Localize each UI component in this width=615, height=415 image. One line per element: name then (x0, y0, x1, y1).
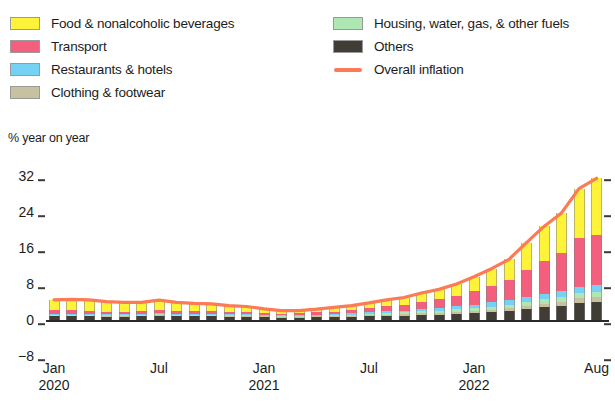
bar-segment (591, 285, 602, 292)
bar-column[interactable] (591, 178, 602, 320)
legend-item-others[interactable]: Others (333, 35, 569, 58)
bar-segment (521, 309, 532, 320)
bar-segment (504, 311, 515, 320)
bar-segment (154, 300, 165, 310)
bar-column[interactable] (346, 306, 357, 320)
legend-color-swatch-clothing (10, 86, 40, 99)
bar-segment (416, 315, 427, 320)
bar-segment (66, 316, 77, 320)
bar-segment (486, 286, 497, 302)
bar-segment (451, 296, 462, 306)
x-tick-month: Jan (463, 360, 486, 376)
bar-column[interactable] (241, 307, 252, 320)
legend-item-food[interactable]: Food & nonalcoholic beverages (10, 12, 234, 35)
bar-segment (556, 213, 567, 253)
bar-segment (101, 302, 112, 312)
bar-segment (119, 303, 130, 312)
bar-segment (469, 277, 480, 291)
legend-item-housing[interactable]: Housing, water, gas, & other fuels (333, 12, 569, 35)
legend-item-restaurants[interactable]: Restaurants & hotels (10, 58, 234, 81)
legend-label-transport: Transport (51, 39, 106, 54)
bar-segment (171, 303, 182, 312)
bar-segment (574, 303, 585, 320)
bar-column[interactable] (136, 302, 147, 320)
bar-column[interactable] (329, 307, 340, 320)
bar-column[interactable] (276, 311, 287, 320)
bar-column[interactable] (539, 226, 550, 320)
legend-line-swatch-overall (333, 63, 363, 76)
bar-segment (539, 261, 550, 294)
x-tick-label: Jan2022 (458, 360, 489, 394)
inflation-contributions-chart: Food & nonalcoholic beveragesTransportRe… (0, 0, 615, 415)
bar-column[interactable] (206, 304, 217, 320)
legend-item-overall[interactable]: Overall inflation (333, 58, 569, 81)
bar-segment (574, 287, 585, 294)
bar-column[interactable] (259, 309, 270, 320)
x-tick-label: Jan2021 (248, 360, 279, 394)
bar-column[interactable] (521, 243, 532, 320)
bar-segment (591, 178, 602, 234)
bar-column[interactable] (364, 303, 375, 320)
x-tick-month: Jan (43, 360, 66, 376)
x-tick-year: 2022 (458, 377, 489, 394)
bar-segment (451, 314, 462, 320)
bar-column[interactable] (311, 309, 322, 320)
bar-column[interactable] (171, 303, 182, 321)
x-tick-label: Jan2020 (38, 360, 69, 394)
bar-column[interactable] (119, 303, 130, 321)
bar-segment (416, 302, 427, 309)
bar-column[interactable] (416, 293, 427, 320)
bar-column[interactable] (224, 306, 235, 320)
legend-item-clothing[interactable]: Clothing & footwear (10, 81, 234, 104)
legend-label-overall: Overall inflation (374, 62, 464, 77)
bar-segment (171, 316, 182, 320)
bar-segment (224, 317, 235, 320)
bar-segment (574, 238, 585, 287)
bar-segment (486, 312, 497, 320)
bar-column[interactable] (294, 311, 305, 320)
bar-column[interactable] (486, 269, 497, 320)
legend-color-swatch-housing (333, 17, 363, 30)
legend-label-restaurants: Restaurants & hotels (51, 62, 172, 77)
bar-column[interactable] (574, 189, 585, 320)
bar-segment (504, 280, 515, 300)
bar-segment (136, 302, 147, 311)
legend-color-swatch-others (333, 40, 363, 53)
bar-segment (469, 291, 480, 305)
bar-column[interactable] (49, 300, 60, 320)
x-tick-label: Jul (360, 360, 378, 377)
bar-column[interactable] (434, 289, 445, 320)
bar-segment (136, 316, 147, 320)
bar-column[interactable] (66, 299, 77, 320)
legend-label-others: Others (374, 39, 413, 54)
bar-column[interactable] (451, 284, 462, 320)
bar-segment (101, 317, 112, 320)
bar-column[interactable] (381, 300, 392, 320)
bar-segment (381, 316, 392, 320)
bar-segment (574, 189, 585, 239)
bar-segment (259, 317, 270, 320)
bar-segment (556, 253, 567, 292)
x-tick-month: Jul (360, 360, 378, 376)
bar-column[interactable] (399, 298, 410, 320)
bar-column[interactable] (504, 259, 515, 320)
bar-column[interactable] (469, 277, 480, 320)
legend-color-swatch-food (10, 17, 40, 30)
x-tick-year: 2021 (248, 377, 279, 394)
bar-segment (521, 270, 532, 297)
bar-column[interactable] (101, 302, 112, 320)
bar-column[interactable] (189, 303, 200, 320)
y-axis-title: % year on year (8, 131, 89, 145)
x-tick-label: Jul (150, 360, 168, 377)
bar-column[interactable] (84, 300, 95, 320)
x-tick-label: Aug (584, 360, 609, 377)
bar-segment (206, 316, 217, 320)
bar-column[interactable] (556, 213, 567, 320)
bar-segment (591, 235, 602, 285)
bar-segment (346, 317, 357, 320)
chart-legend: Food & nonalcoholic beveragesTransportRe… (0, 0, 615, 112)
bar-column[interactable] (154, 300, 165, 320)
legend-item-transport[interactable]: Transport (10, 35, 234, 58)
bar-segment (451, 284, 462, 296)
x-tick-month: Aug (584, 360, 609, 376)
